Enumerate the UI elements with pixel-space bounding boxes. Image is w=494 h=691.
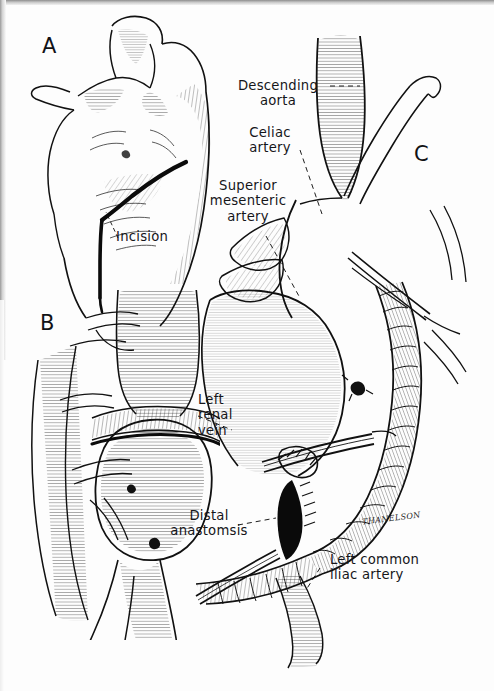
label-descending-aorta: Descending aorta	[228, 78, 328, 109]
leader-celiac-artery	[300, 150, 322, 214]
label-celiac-artery: Celiac artery	[234, 125, 306, 156]
label-superior-mesenteric-artery: Superior mesenteric artery	[202, 178, 294, 224]
label-left-renal-vein: Left renal vein	[198, 392, 258, 438]
panel-b-aneurysm	[32, 288, 226, 677]
panel-letter-a: A	[42, 36, 56, 57]
illustration-figure: A B C Incision Descending aorta Celiac a…	[0, 0, 494, 691]
label-distal-anastomsis: Distal anastomsis	[164, 508, 254, 539]
label-left-common-iliac-artery: Left common iliac artery	[330, 552, 450, 583]
panel-letter-b: B	[40, 313, 54, 334]
panel-letter-c: C	[414, 144, 429, 165]
label-incision: Incision	[116, 229, 168, 244]
